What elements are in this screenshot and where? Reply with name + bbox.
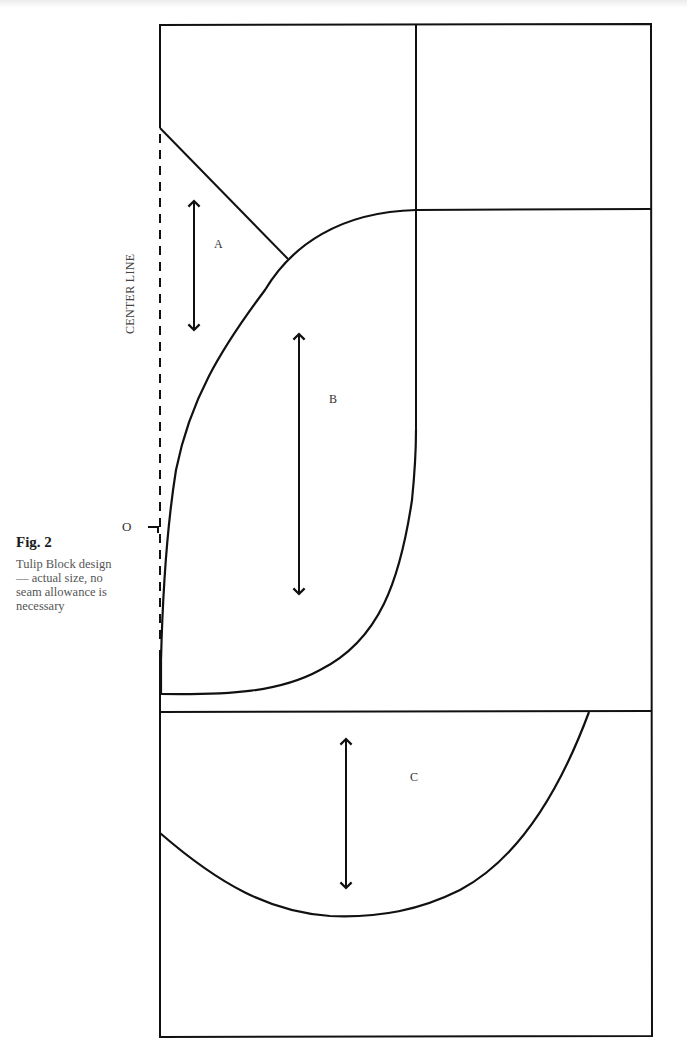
center-line-label: CENTER LINE	[123, 254, 137, 334]
origin-marker-label: O	[122, 519, 131, 534]
figure-number: Fig. 2	[16, 534, 124, 551]
seam-lines	[160, 25, 651, 712]
piece-b-outline	[161, 210, 416, 694]
piece-c-outline	[160, 712, 589, 916]
piece-label-b: B	[329, 392, 337, 406]
figure-caption-text: Tulip Block design — actual size, no sea…	[16, 557, 124, 613]
origin-marker-tick	[148, 527, 158, 533]
piece-label-a: A	[214, 237, 223, 251]
tulip-block-pattern: A B C CENTER LINE O	[0, 0, 687, 1053]
figure-caption: Fig. 2 Tulip Block design — actual size,…	[16, 534, 124, 613]
piece-label-c: C	[410, 770, 418, 784]
